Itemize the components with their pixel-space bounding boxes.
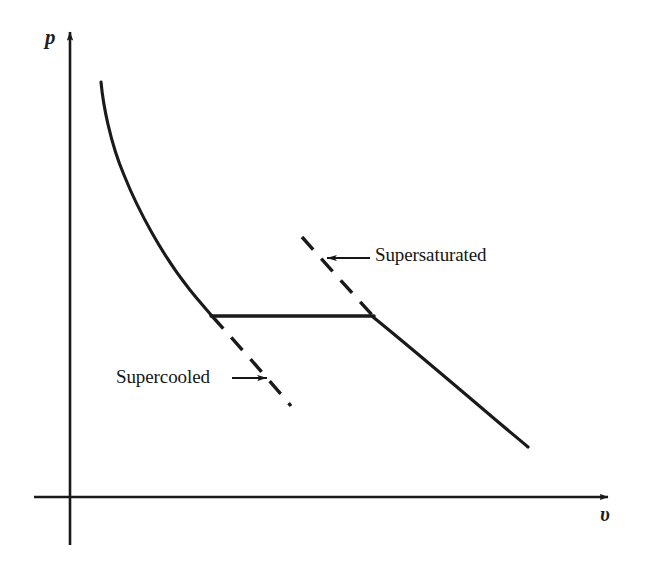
pv-diagram-canvas bbox=[0, 0, 645, 562]
supercooled-annotation-label: Supercooled bbox=[116, 367, 210, 386]
supercooled-dashed-extension bbox=[212, 316, 291, 406]
supersaturated-annotation-label: Supersaturated bbox=[375, 245, 487, 264]
liquid-branch-curve bbox=[101, 82, 212, 316]
y-axis-label: p bbox=[45, 27, 56, 48]
supersaturated-dashed-extension bbox=[302, 237, 373, 316]
pv-diagram-figure: p υ Supersaturated Supercooled bbox=[0, 0, 645, 562]
x-axis-label: υ bbox=[600, 504, 610, 524]
vapour-branch-curve bbox=[373, 317, 528, 447]
